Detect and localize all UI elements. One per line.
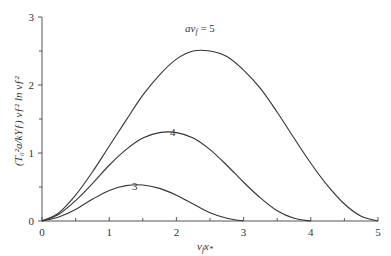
- curve-4: [42, 132, 311, 221]
- chart: 0123450123 avf = 5 4 3 vfx* (T₀²a/kYƒ) v…: [0, 0, 391, 256]
- curve-label-3: 3: [132, 180, 138, 192]
- y-tick-label: 3: [29, 11, 35, 23]
- curve-label-5: avf = 5: [185, 22, 215, 36]
- curve-3: [42, 185, 244, 221]
- x-tick-label: 0: [39, 226, 45, 238]
- axes: 0123450123: [29, 11, 382, 238]
- y-axis-title: (T₀²a/kYƒ) vƒ² ln vƒ²: [12, 75, 25, 165]
- y-tick-label: 0: [29, 215, 35, 227]
- x-tick-label: 4: [308, 226, 314, 238]
- y-tick-label: 2: [29, 79, 35, 91]
- curve-av-f-5: [42, 50, 378, 221]
- x-tick-label: 3: [241, 226, 247, 238]
- x-tick-label: 1: [106, 226, 112, 238]
- x-tick-label: 5: [375, 226, 381, 238]
- x-tick-label: 2: [174, 226, 180, 238]
- curves: [42, 50, 378, 221]
- y-tick-label: 1: [29, 147, 35, 159]
- curve-label-4: 4: [170, 126, 176, 138]
- x-axis-title: vfx*: [197, 240, 213, 254]
